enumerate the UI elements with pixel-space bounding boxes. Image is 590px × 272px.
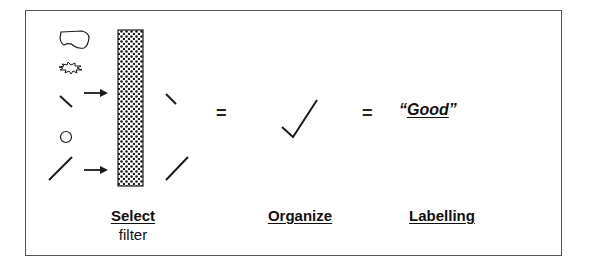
- starburst-icon: [59, 62, 82, 74]
- stage-title-labelling: Labelling: [397, 207, 487, 224]
- equals-sign: =: [362, 103, 373, 124]
- circle-shape-icon: [61, 132, 72, 143]
- stage-title-select: Select: [98, 207, 168, 224]
- good-label: “Good”: [399, 101, 457, 119]
- equals-sign: =: [216, 103, 227, 124]
- diagram-artwork: [0, 0, 590, 272]
- arrow-right-icon: [84, 89, 108, 97]
- filter-bar: [118, 30, 143, 186]
- open-quote: “: [399, 101, 407, 118]
- stage-subtitle-filter: filter: [98, 226, 168, 243]
- blob-shape-icon: [60, 31, 89, 48]
- output-long-line-icon: [166, 157, 188, 180]
- output-short-line-icon: [166, 94, 176, 104]
- input-long-line-icon: [49, 157, 72, 180]
- good-word: Good: [407, 101, 449, 118]
- arrow-right-icon: [84, 166, 108, 174]
- checkmark-icon: [282, 100, 317, 137]
- stage-title-organize: Organize: [255, 207, 345, 224]
- close-quote: ”: [449, 101, 457, 118]
- input-short-line-icon: [60, 96, 72, 107]
